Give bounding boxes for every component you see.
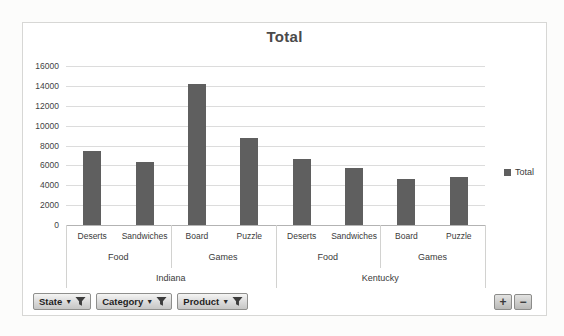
pivot-field-buttons: State ▼ Category ▼ Product ▼ xyxy=(33,293,248,310)
category-label: Food xyxy=(276,247,381,267)
category-filter-button[interactable]: Category ▼ xyxy=(96,293,172,310)
gridline xyxy=(66,205,485,206)
product-label: Puzzle xyxy=(433,226,485,246)
chevron-down-icon: ▼ xyxy=(222,298,229,305)
product-label: Sandwiches xyxy=(328,226,380,246)
axis-divider xyxy=(380,225,381,268)
chart-title[interactable]: Total xyxy=(23,28,546,45)
gridline xyxy=(66,66,485,67)
category-filter-label: Category xyxy=(102,296,143,307)
bar-indiana-puzzle[interactable] xyxy=(240,138,258,225)
state-label: Indiana xyxy=(66,268,276,288)
y-axis-tick-label: 0 xyxy=(25,220,59,230)
y-axis-tick-label: 10000 xyxy=(25,121,59,131)
state-filter-label: State xyxy=(39,296,62,307)
bar-indiana-sandwiches[interactable] xyxy=(136,162,154,225)
product-label: Board xyxy=(171,226,223,246)
funnel-icon xyxy=(156,296,167,307)
y-axis-tick-label: 14000 xyxy=(25,81,59,91)
gridline xyxy=(66,146,485,147)
product-label: Deserts xyxy=(276,226,328,246)
axis-divider xyxy=(66,225,67,288)
product-label: Board xyxy=(380,226,432,246)
axis-divider xyxy=(485,225,486,288)
bar-kentucky-deserts[interactable] xyxy=(293,159,311,225)
axis-divider xyxy=(276,225,277,288)
y-axis-tick-label: 12000 xyxy=(25,101,59,111)
bar-kentucky-board[interactable] xyxy=(397,179,415,225)
legend-label: Total xyxy=(515,167,534,177)
chart-area: Total 0200040006000800010000120001400016… xyxy=(22,22,547,316)
bar-kentucky-sandwiches[interactable] xyxy=(345,168,363,225)
expand-collapse-controls: + − xyxy=(494,294,532,310)
collapse-field-button[interactable]: − xyxy=(514,294,532,310)
product-filter-label: Product xyxy=(183,296,219,307)
bar-indiana-board[interactable] xyxy=(188,84,206,225)
legend-marker-icon xyxy=(504,169,511,176)
legend[interactable]: Total xyxy=(504,167,534,177)
product-label: Deserts xyxy=(66,226,118,246)
bar-indiana-deserts[interactable] xyxy=(83,151,101,225)
category-label: Games xyxy=(171,247,276,267)
gridline xyxy=(66,126,485,127)
axis-divider xyxy=(171,225,172,268)
product-label: Sandwiches xyxy=(118,226,170,246)
state-filter-button[interactable]: State ▼ xyxy=(33,293,91,310)
chevron-down-icon: ▼ xyxy=(146,298,153,305)
category-label: Games xyxy=(380,247,485,267)
y-axis-tick-label: 2000 xyxy=(25,200,59,210)
y-axis-tick-label: 6000 xyxy=(25,160,59,170)
gridline xyxy=(66,86,485,87)
expand-field-button[interactable]: + xyxy=(494,294,512,310)
product-filter-button[interactable]: Product ▼ xyxy=(177,293,248,310)
funnel-icon xyxy=(232,296,243,307)
y-axis-tick-label: 16000 xyxy=(25,61,59,71)
state-label: Kentucky xyxy=(276,268,486,288)
product-label: Puzzle xyxy=(223,226,275,246)
funnel-icon xyxy=(75,296,86,307)
y-axis-tick-label: 4000 xyxy=(25,180,59,190)
pivot-chart-screenshot: Total 0200040006000800010000120001400016… xyxy=(0,0,564,336)
gridline xyxy=(66,165,485,166)
bar-kentucky-puzzle[interactable] xyxy=(450,177,468,225)
category-label: Food xyxy=(66,247,171,267)
y-axis-tick-label: 8000 xyxy=(25,141,59,151)
gridline xyxy=(66,106,485,107)
gridline xyxy=(66,185,485,186)
chevron-down-icon: ▼ xyxy=(65,298,72,305)
